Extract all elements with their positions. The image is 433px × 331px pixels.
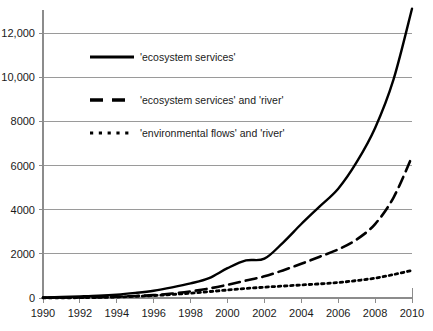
- x-tick-label-2002: 2002: [252, 307, 276, 319]
- x-tick-label-1998: 1998: [178, 307, 202, 319]
- x-tick-label-1994: 1994: [105, 307, 129, 319]
- x-tick-label-2008: 2008: [363, 307, 387, 319]
- x-tick-label-1992: 1992: [68, 307, 92, 319]
- y-tick-label-10000: 10,000: [1, 71, 35, 83]
- x-tick-label-2004: 2004: [289, 307, 313, 319]
- y-tick-label-2000: 2000: [11, 248, 35, 260]
- x-tick-label-2010: 2010: [400, 307, 424, 319]
- legend-label-2: 'ecosystem services' and 'river': [140, 94, 283, 106]
- y-tick-label-0: 0: [29, 292, 35, 304]
- y-tick-label-8000: 8000: [11, 115, 35, 127]
- x-tick-label-1990: 1990: [31, 307, 55, 319]
- x-tick-label-1996: 1996: [141, 307, 165, 319]
- y-tick-label-6000: 6000: [11, 160, 35, 172]
- x-axis-tick-labels: 1990199219941996199820002002200420062008…: [31, 307, 424, 319]
- y-tick-label-12000: 12,000: [1, 27, 35, 39]
- x-tick-label-2006: 2006: [326, 307, 350, 319]
- line-chart: 0200040006000800010,00012,000 1990199219…: [0, 0, 433, 331]
- chart-canvas: 0200040006000800010,00012,000 1990199219…: [0, 0, 433, 331]
- legend-label-1: 'ecosystem services': [140, 51, 236, 63]
- x-tick-label-2000: 2000: [215, 307, 239, 319]
- y-tick-label-4000: 4000: [11, 204, 35, 216]
- legend-label-3: 'environmental flows' and 'river': [140, 127, 285, 139]
